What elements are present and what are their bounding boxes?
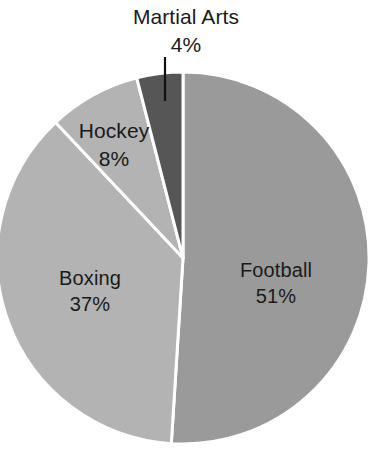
slice-label-name-football: Football (240, 257, 312, 283)
slice-label-value-hockey: 8% (79, 145, 150, 173)
pie-slice-group (0, 72, 369, 444)
slice-label-name-martial-arts: Martial Arts (133, 3, 239, 31)
slice-label-value-martial-arts: 4% (133, 31, 239, 59)
slice-label-football: Football 51% (240, 257, 312, 310)
slice-label-boxing: Boxing 37% (59, 265, 121, 318)
slice-label-name-hockey: Hockey (79, 117, 150, 145)
slice-label-martial-arts: Martial Arts 4% (133, 3, 239, 58)
slice-label-hockey: Hockey 8% (79, 117, 150, 172)
slice-label-value-boxing: 37% (59, 291, 121, 317)
slice-label-value-football: 51% (240, 283, 312, 309)
pie-chart-canvas (0, 0, 370, 460)
pie-chart-figure: Martial Arts 4% Hockey 8% Boxing 37% Foo… (0, 0, 370, 460)
slice-label-name-boxing: Boxing (59, 265, 121, 291)
